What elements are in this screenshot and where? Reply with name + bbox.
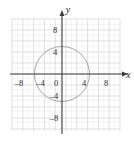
x-tick-label-neg4: –4 bbox=[35, 78, 45, 88]
graph-figure: x y –8 –4 0 4 8 8 4 –4 –8 bbox=[0, 0, 134, 144]
coordinate-plane-svg: x y –8 –4 0 4 8 8 4 –4 –8 bbox=[0, 0, 134, 144]
x-tick-label-zero: 0 bbox=[54, 78, 58, 88]
y-tick-label-neg4: –4 bbox=[49, 91, 59, 101]
x-tick-label-neg8: –8 bbox=[14, 78, 24, 88]
y-tick-label-8: 8 bbox=[53, 25, 57, 35]
y-tick-label-neg8: –8 bbox=[49, 113, 59, 123]
y-axis-label: y bbox=[65, 4, 71, 15]
x-tick-label-8: 8 bbox=[104, 78, 108, 88]
x-axis-label: x bbox=[125, 69, 131, 80]
y-axis-arrowhead bbox=[60, 10, 65, 16]
